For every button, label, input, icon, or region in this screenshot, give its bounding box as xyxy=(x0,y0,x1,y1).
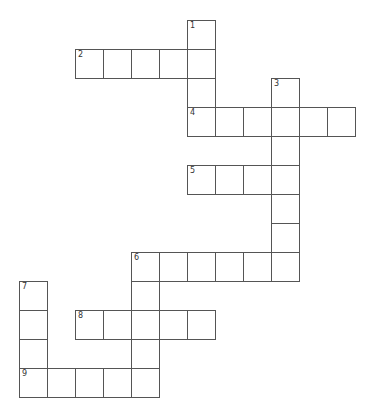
crossword-cell[interactable] xyxy=(75,368,104,398)
crossword-cell[interactable]: 5 xyxy=(187,165,216,195)
crossword-cell[interactable]: 1 xyxy=(187,20,216,50)
clue-number: 2 xyxy=(78,50,83,60)
crossword-cell[interactable]: 8 xyxy=(75,310,104,340)
crossword-cell[interactable] xyxy=(131,339,160,369)
crossword-cell[interactable] xyxy=(187,310,216,340)
clue-number: 9 xyxy=(22,369,27,379)
crossword-cell[interactable] xyxy=(103,368,132,398)
crossword-cell[interactable] xyxy=(131,368,160,398)
crossword-cell[interactable] xyxy=(19,339,48,369)
crossword-cell[interactable]: 9 xyxy=(19,368,48,398)
crossword-cell[interactable] xyxy=(215,252,244,282)
crossword-cell[interactable] xyxy=(159,49,188,79)
crossword-cell[interactable] xyxy=(243,107,272,137)
crossword-cell[interactable] xyxy=(131,310,160,340)
crossword-cell[interactable] xyxy=(271,165,300,195)
clue-number: 3 xyxy=(274,79,279,89)
crossword-cell[interactable] xyxy=(131,49,160,79)
crossword-cell[interactable] xyxy=(187,252,216,282)
clue-number: 5 xyxy=(190,166,195,176)
crossword-cell[interactable] xyxy=(327,107,356,137)
clue-number: 6 xyxy=(134,253,139,263)
crossword-cell[interactable]: 7 xyxy=(19,281,48,311)
crossword-cell[interactable] xyxy=(271,223,300,253)
crossword-cell[interactable] xyxy=(271,107,300,137)
crossword-cell[interactable] xyxy=(131,281,160,311)
crossword-cell[interactable] xyxy=(187,78,216,108)
crossword-cell[interactable] xyxy=(159,252,188,282)
crossword-cell[interactable] xyxy=(271,194,300,224)
clue-number: 7 xyxy=(22,282,27,292)
crossword-cell[interactable] xyxy=(299,107,328,137)
clue-number: 8 xyxy=(78,311,83,321)
crossword-cell[interactable] xyxy=(271,136,300,166)
crossword-cell[interactable] xyxy=(215,165,244,195)
clue-number: 1 xyxy=(190,21,195,31)
crossword-cell[interactable] xyxy=(103,49,132,79)
clue-number: 4 xyxy=(190,108,195,118)
crossword-cell[interactable]: 2 xyxy=(75,49,104,79)
crossword-cell[interactable] xyxy=(19,310,48,340)
crossword-cell[interactable] xyxy=(243,165,272,195)
crossword-cell[interactable] xyxy=(243,252,272,282)
crossword-cell[interactable]: 4 xyxy=(187,107,216,137)
crossword-cell[interactable] xyxy=(215,107,244,137)
crossword-cell[interactable] xyxy=(103,310,132,340)
crossword-cell[interactable]: 3 xyxy=(271,78,300,108)
crossword-grid: 142356798 xyxy=(0,0,368,410)
crossword-cell[interactable] xyxy=(271,252,300,282)
crossword-cell[interactable]: 6 xyxy=(131,252,160,282)
crossword-cell[interactable] xyxy=(47,368,76,398)
crossword-cell[interactable] xyxy=(187,49,216,79)
crossword-cell[interactable] xyxy=(159,310,188,340)
